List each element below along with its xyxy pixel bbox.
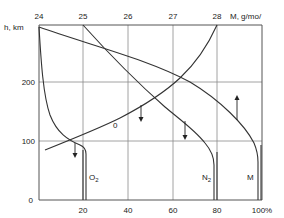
y-axis-title: h, km	[4, 23, 24, 32]
label-o2: O2	[89, 173, 99, 183]
curve-n2	[83, 25, 214, 200]
arrow-up-m	[235, 95, 240, 120]
grid	[39, 25, 262, 200]
top-tick-27: 27	[169, 12, 178, 21]
top-tick-25: 25	[79, 12, 88, 21]
bottom-tick-80: 80	[213, 206, 222, 215]
arrow-down-2	[183, 121, 188, 140]
top-axis-title: M, g/mo/	[230, 12, 262, 21]
y-tick-200: 200	[22, 78, 36, 87]
curve-o2	[39, 27, 86, 200]
y-tick-100: 100	[22, 137, 36, 146]
bottom-tick-40: 40	[124, 206, 133, 215]
curve-o	[45, 25, 217, 150]
bottom-tick-20: 20	[79, 206, 88, 215]
y-tick-0: 0	[29, 196, 34, 205]
atmosphere-composition-chart: 24 25 26 27 28 M, g/mo/ h, km 200 100 0 …	[0, 0, 284, 218]
bottom-tick-60: 60	[169, 206, 178, 215]
top-tick-24: 24	[35, 12, 44, 21]
label-o: 0	[113, 121, 118, 130]
curve-m	[39, 27, 258, 200]
label-m: M	[247, 173, 254, 182]
top-tick-26: 26	[124, 12, 133, 21]
bottom-tick-100: 100%	[252, 206, 272, 215]
arrow-down-o2	[73, 143, 78, 158]
label-n2: N2	[202, 173, 212, 183]
plot-frame	[39, 25, 262, 200]
top-tick-28: 28	[213, 12, 222, 21]
